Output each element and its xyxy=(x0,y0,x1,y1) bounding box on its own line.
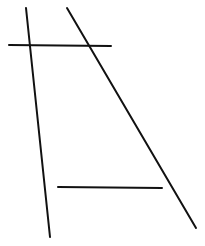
lower-horizontal-line xyxy=(58,187,162,188)
right-slanted-line xyxy=(67,8,196,228)
diagram-svg xyxy=(0,0,205,246)
line-diagram xyxy=(0,0,205,246)
upper-horizontal-line xyxy=(9,45,111,46)
left-slanted-line xyxy=(26,8,50,237)
